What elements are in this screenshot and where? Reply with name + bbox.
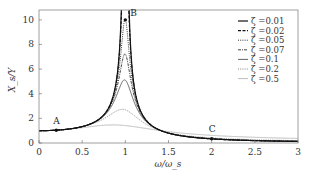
point-c-label: C [209,124,216,134]
legend-entry: ζ =0.02 [251,26,284,36]
legend-entry: ζ =0.2 [251,64,279,74]
legend-entry: ζ =0.05 [251,35,284,45]
y-tick-label: 10 [23,15,35,25]
x-axis-title: ω/ω_s [155,159,182,170]
x-tick-label: 2.5 [248,147,263,157]
y-axis-title: X_s/Y [7,67,18,94]
x-axis: 00.511.522.53 [36,140,301,157]
point-c-marker [210,137,213,140]
y-tick-label: 0 [28,138,34,148]
point-a-marker [55,128,58,131]
y-tick-label: 6 [28,64,34,74]
legend: ζ =0.01ζ =0.02ζ =0.05ζ =0.07ζ =0.1ζ =0.2… [238,16,284,84]
point-a-label: A [52,116,60,126]
x-tick-label: 0.5 [75,147,90,157]
point-b-marker [124,18,127,21]
legend-entry: ζ =0.1 [251,54,279,64]
y-tick-label: 2 [28,113,34,123]
legend-entry: ζ =0.01 [251,16,284,26]
x-tick-label: 2 [209,147,215,157]
x-tick-label: 3 [295,147,301,157]
transmissibility-chart: 00.511.522.53 0246810 X_s/Y ω/ω_s ζ =0.0… [0,0,312,191]
legend-entry: ζ =0.5 [251,74,279,84]
x-tick-label: 1.5 [161,147,176,157]
y-tick-label: 8 [28,39,34,49]
point-b-label: B [130,8,137,18]
curve-0_2 [39,109,298,140]
y-tick-label: 4 [28,89,34,99]
x-tick-label: 0 [36,147,42,157]
legend-entry: ζ =0.07 [251,45,284,55]
annotations: ABC [52,8,215,141]
x-tick-label: 1 [122,147,128,157]
